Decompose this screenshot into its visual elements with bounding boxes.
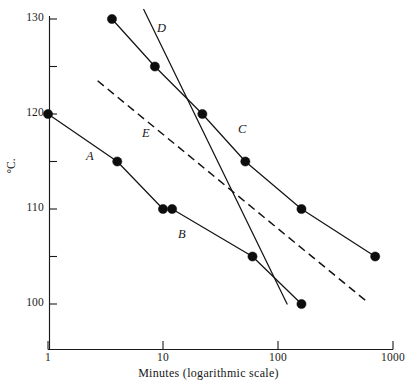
data-point-marker — [158, 204, 167, 213]
x-axis-title: Minutes (logarithmic scale) — [0, 366, 417, 381]
series-lines — [48, 10, 375, 305]
y-tick-label: 110 — [0, 201, 44, 213]
series-line-b — [172, 209, 301, 304]
data-point-marker — [198, 109, 207, 118]
data-point-marker — [43, 109, 52, 118]
data-point-marker — [371, 252, 380, 261]
series-line-d — [144, 10, 287, 305]
data-point-marker — [297, 204, 306, 213]
series-line-e — [98, 81, 368, 302]
x-tick-label: 1 — [23, 351, 73, 363]
y-axis-ticks — [50, 19, 58, 304]
figure-container: 1301201101001101001000 ABCDE Minutes (lo… — [0, 0, 417, 391]
data-point-marker — [107, 14, 116, 23]
axes-group — [48, 16, 393, 350]
x-axis-ticks — [48, 341, 393, 350]
y-tick-label: 120 — [0, 106, 44, 118]
series-label-e: E — [142, 126, 150, 141]
data-point-marker — [241, 157, 250, 166]
y-tick-label: 130 — [0, 11, 44, 23]
series-label-b: B — [178, 227, 186, 242]
data-point-marker — [248, 252, 257, 261]
x-tick-label: 1000 — [368, 351, 417, 363]
y-tick-label: 100 — [0, 296, 44, 308]
series-label-a: A — [86, 149, 94, 164]
data-point-marker — [113, 157, 122, 166]
x-tick-label: 100 — [253, 351, 303, 363]
series-line-c — [112, 19, 375, 257]
chart-plot-area — [0, 0, 417, 391]
y-axis-title: °C. — [5, 146, 17, 186]
data-point-marker — [168, 204, 177, 213]
data-point-marker — [297, 299, 306, 308]
series-label-d: D — [157, 21, 166, 36]
x-tick-label: 10 — [138, 351, 188, 363]
data-point-marker — [150, 62, 159, 71]
series-label-c: C — [238, 122, 246, 137]
